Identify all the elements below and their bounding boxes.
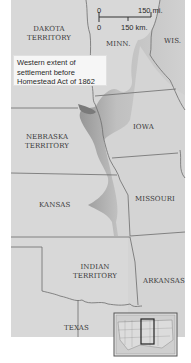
- scale-labels: 0 150 mi. 0 150 km.: [96, 6, 166, 34]
- label-line: TEXAS: [64, 324, 89, 333]
- label-minnesota: MINN.: [106, 40, 130, 49]
- inset-locator-map: [114, 313, 177, 356]
- label-line: INDIAN: [73, 263, 117, 272]
- label-line: KANSAS: [39, 201, 70, 210]
- label-texas: TEXAS: [64, 324, 89, 333]
- label-indian-territory: INDIAN TERRITORY: [73, 263, 117, 281]
- label-line: TERRITORY: [25, 142, 69, 151]
- label-line: TERRITORY: [27, 34, 71, 43]
- label-dakota-territory: DAKOTA TERRITORY: [27, 25, 71, 43]
- scale-km-label: 150 km.: [121, 23, 148, 32]
- label-line: DAKOTA: [27, 25, 71, 34]
- label-missouri: MISSOURI: [135, 195, 175, 204]
- label-nebraska-territory: NEBRASKA TERRITORY: [25, 133, 69, 151]
- label-line: IOWA: [133, 123, 154, 132]
- label-line: WIS.: [164, 37, 181, 46]
- scale-mi-label: 150 mi.: [138, 6, 163, 15]
- label-line: NEBRASKA: [25, 133, 69, 142]
- label-line: MINN.: [106, 40, 130, 49]
- label-line: TERRITORY: [73, 272, 117, 281]
- legend-line: settlement before: [17, 68, 103, 78]
- label-line: MISSOURI: [135, 195, 175, 204]
- label-iowa: IOWA: [133, 123, 154, 132]
- scale-mi-zero: 0: [97, 6, 101, 15]
- legend-line: Homestead Act of 1862: [17, 77, 103, 87]
- legend-line: Western extent of: [17, 58, 103, 68]
- legend-box: Western extent of settlement before Home…: [13, 55, 107, 86]
- label-arkansas: ARKANSAS: [143, 277, 185, 286]
- label-wisconsin: WIS.: [164, 37, 181, 46]
- label-kansas: KANSAS: [39, 201, 70, 210]
- scale-km-zero: 0: [97, 23, 101, 32]
- label-line: ARKANSAS: [143, 277, 185, 286]
